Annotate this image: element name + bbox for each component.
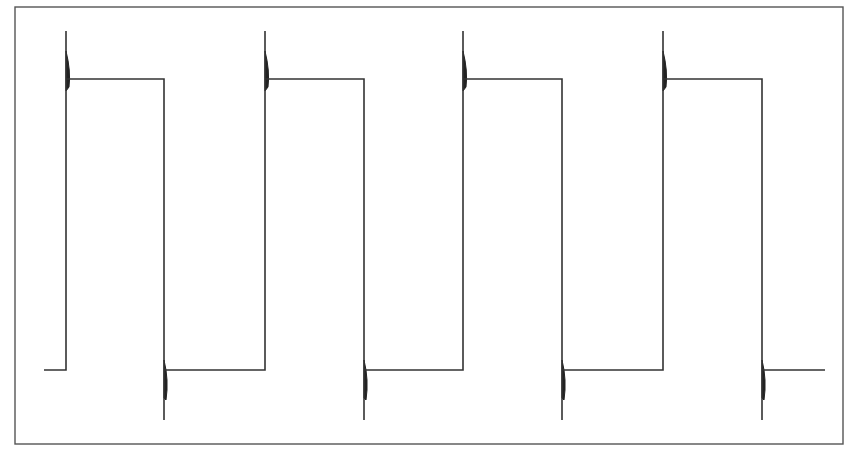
- ringing-spikes: [66, 51, 765, 400]
- square-wave-plot: [0, 0, 850, 449]
- square-wave-line: [44, 31, 825, 420]
- plot-frame: [15, 7, 843, 444]
